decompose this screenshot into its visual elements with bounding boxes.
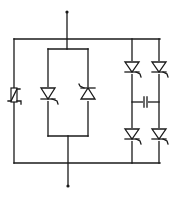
bridge-thyristor-bottom-left-icon — [125, 128, 141, 144]
bridge-thyristor-bottom-right-icon — [152, 128, 168, 144]
bridge-thyristor-top-right-icon — [152, 61, 168, 77]
capacitor-icon — [143, 96, 148, 108]
bridge-thyristor-top-left-icon — [125, 61, 141, 77]
circuit-diagram — [0, 0, 179, 200]
varistor-icon — [8, 88, 21, 104]
thyristor-left-icon — [41, 87, 58, 104]
thyristor-right-icon — [79, 84, 95, 101]
